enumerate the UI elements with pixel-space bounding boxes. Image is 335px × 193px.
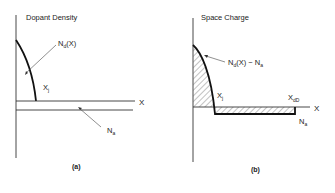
panel-a-nd-pointer	[26, 45, 56, 73]
panel-a-caption: (a)	[72, 163, 81, 171]
panel-b-curve-label: Nd(X) − Na	[228, 58, 263, 68]
panel-b: Space Charge X Nd(X) − Na Xj XdD Na (b)	[193, 13, 320, 174]
panel-a-na-pointer	[79, 108, 101, 127]
panel-b-negative-charge-region	[215, 107, 295, 114]
panel-b-pointer	[206, 56, 225, 62]
panel-a-nd-label: Nd(X)	[58, 39, 77, 49]
panel-b-positive-charge-region	[193, 45, 215, 107]
panel-b-na-label: Na	[299, 117, 307, 127]
panel-a-donor-curve	[16, 40, 36, 101]
panel-b-title: Space Charge	[201, 13, 249, 22]
panel-a-na-label: Na	[107, 126, 115, 136]
diagram-canvas: Dopant Density X Nd(X) Xj Na (a) Space C…	[0, 0, 335, 193]
panel-a-x-axis-label: X	[139, 98, 145, 107]
panel-a-junction-label: Xj	[43, 83, 49, 93]
panel-b-depletion-edge-label: XdD	[288, 93, 300, 103]
panel-a: Dopant Density X Nd(X) Xj Na (a)	[16, 13, 145, 171]
panel-b-caption: (b)	[251, 166, 260, 174]
panel-a-title: Dopant Density	[26, 13, 78, 22]
arrowhead-icon	[204, 55, 208, 58]
panel-b-junction-label: Xj	[217, 91, 223, 101]
panel-b-x-axis-label: X	[314, 104, 320, 113]
